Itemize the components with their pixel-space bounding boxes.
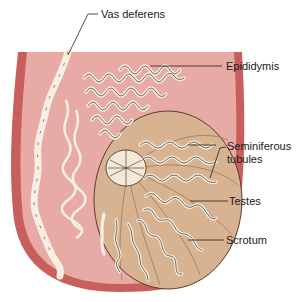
label-epididymis: Epididymis (226, 60, 279, 72)
label-testes: Testes (229, 195, 261, 207)
label-scrotum: Scrotum (226, 234, 267, 246)
leader-vas-deferens (68, 14, 98, 55)
label-seminiferous: Seminiferous (227, 140, 291, 152)
rete-testis (106, 150, 146, 186)
label-vas-deferens: Vas deferens (101, 8, 165, 20)
label-tubules: tubules (227, 153, 262, 165)
